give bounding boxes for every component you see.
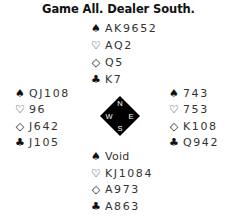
compass-icon: N E S W (100, 96, 140, 136)
west-diamonds-cards: J642 (29, 119, 60, 135)
east-hearts-cards: 753 (183, 102, 209, 118)
heart-icon: ♡ (90, 38, 102, 54)
north-diamonds-cards: Q5 (105, 55, 124, 71)
heart-icon: ♡ (168, 102, 180, 118)
compass-w: W (105, 112, 113, 121)
spade-icon: ♠ (90, 149, 102, 165)
east-clubs-cards: Q942 (183, 135, 219, 151)
north-hearts-cards: AQ2 (105, 38, 133, 54)
east-spades-cards: 743 (183, 86, 209, 102)
west-clubs-cards: J105 (29, 135, 60, 151)
heart-icon: ♡ (14, 102, 26, 118)
diamond-icon: ◇ (168, 119, 180, 135)
spade-icon: ♠ (14, 86, 26, 102)
deal-title: Game All. Dealer South. (0, 2, 237, 16)
south-diamonds-cards: A973 (105, 182, 140, 198)
club-icon: ♣ (90, 199, 102, 215)
south-clubs-cards: A863 (105, 199, 140, 215)
south-hearts-cards: KJ1084 (105, 166, 153, 182)
diamond-icon: ◇ (90, 55, 102, 71)
east-diamonds-cards: K108 (183, 119, 218, 135)
diamond-icon: ◇ (14, 119, 26, 135)
compass-s: S (117, 124, 122, 133)
south-spades-cards: Void (105, 149, 130, 165)
compass-diamond: N E S W (100, 96, 140, 136)
club-icon: ♣ (90, 72, 102, 88)
spade-icon: ♠ (168, 86, 180, 102)
west-hearts-cards: 96 (29, 102, 46, 118)
spade-icon: ♠ (90, 21, 102, 37)
north-clubs-cards: K7 (105, 72, 122, 88)
club-icon: ♣ (168, 135, 180, 151)
diamond-icon: ◇ (90, 182, 102, 198)
north-spades-cards: AK9652 (105, 21, 157, 37)
compass-e: E (128, 112, 133, 121)
west-spades-cards: QJ108 (29, 86, 70, 102)
compass-n: N (117, 99, 122, 108)
heart-icon: ♡ (90, 166, 102, 182)
club-icon: ♣ (14, 135, 26, 151)
